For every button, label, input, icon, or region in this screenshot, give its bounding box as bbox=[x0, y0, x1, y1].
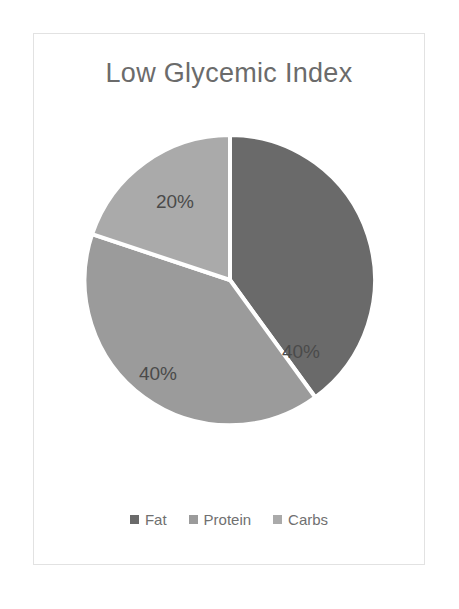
legend-swatch-protein-icon bbox=[189, 515, 198, 524]
legend-swatch-carbs-icon bbox=[273, 515, 282, 524]
legend-swatch-fat-icon bbox=[130, 515, 139, 524]
pie-slice-label-carbs: 20% bbox=[156, 191, 194, 212]
chart-legend: Fat Protein Carbs bbox=[34, 511, 424, 528]
pie-chart-area: 40% 40% 20% bbox=[34, 130, 426, 450]
legend-label-fat: Fat bbox=[145, 511, 167, 528]
legend-item-fat[interactable]: Fat bbox=[130, 511, 167, 528]
pie-slice-label-fat: 40% bbox=[282, 341, 320, 362]
pie-chart-svg: 40% 40% 20% bbox=[80, 130, 380, 430]
legend-item-carbs[interactable]: Carbs bbox=[273, 511, 328, 528]
pie-slice-label-protein: 40% bbox=[139, 363, 177, 384]
legend-item-protein[interactable]: Protein bbox=[189, 511, 252, 528]
chart-title: Low Glycemic Index bbox=[34, 58, 424, 89]
legend-label-carbs: Carbs bbox=[288, 511, 328, 528]
legend-label-protein: Protein bbox=[204, 511, 252, 528]
chart-frame: Low Glycemic Index 40% 40% 20% Fat Prote… bbox=[33, 33, 425, 565]
